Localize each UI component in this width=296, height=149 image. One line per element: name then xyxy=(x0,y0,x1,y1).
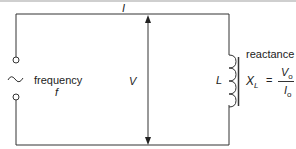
formula-denominator: Io xyxy=(284,85,292,99)
formula-fraction-bar xyxy=(278,81,294,82)
bottom-wire xyxy=(16,100,229,145)
terminal-bottom xyxy=(13,94,19,100)
current-label: I xyxy=(122,3,125,14)
arrow-up-icon xyxy=(145,15,151,23)
source-symbol: f xyxy=(55,87,58,98)
terminal-top xyxy=(13,57,19,63)
formula-equals: = xyxy=(266,75,272,86)
formula-numerator: Vo xyxy=(281,67,293,81)
inductor-label: L xyxy=(216,75,222,86)
ac-source-icon xyxy=(8,77,23,82)
voltage-label: V xyxy=(129,76,136,87)
arrow-down-icon xyxy=(145,137,151,145)
reactance-title: reactance xyxy=(246,49,294,60)
inductor-coil xyxy=(229,55,236,107)
formula-lhs: XL xyxy=(246,75,258,90)
source-label: frequency xyxy=(34,75,82,86)
